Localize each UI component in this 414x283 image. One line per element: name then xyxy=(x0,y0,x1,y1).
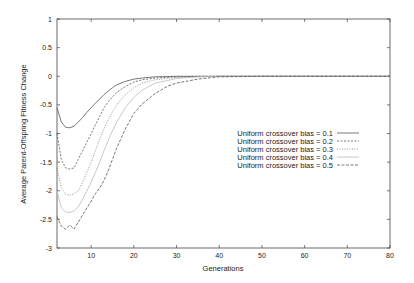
y-tick-label: -2 xyxy=(46,187,52,194)
y-tick-label: 0.5 xyxy=(42,44,52,51)
series-line-1 xyxy=(57,76,390,128)
x-tick-label: 20 xyxy=(130,252,138,259)
series-lines xyxy=(57,76,390,229)
x-tick-label: 10 xyxy=(87,252,95,259)
line-chart: 1020304050607080 10.50-0.5-1-1.5-2-2.5-3… xyxy=(0,0,414,283)
plot-frame xyxy=(57,19,390,248)
y-axis-title: Average Parent-Offspring Fitness Change xyxy=(19,64,28,203)
series-line-2 xyxy=(57,76,390,169)
x-tick-label: 70 xyxy=(343,252,351,259)
x-tick-label: 30 xyxy=(173,252,181,259)
series-line-3 xyxy=(57,76,390,195)
x-axis-title: Generations xyxy=(203,264,244,273)
x-tick-label: 60 xyxy=(301,252,309,259)
legend: Uniform crossover bias = 0.1Uniform cros… xyxy=(237,129,359,170)
y-tick-label: 0 xyxy=(48,73,52,80)
y-tick-label: -0.5 xyxy=(40,101,52,108)
y-tick-label: -2.5 xyxy=(40,216,52,223)
y-axis: 10.50-0.5-1-1.5-2-2.5-3 xyxy=(40,16,390,252)
series-line-4 xyxy=(57,76,390,212)
x-tick-label: 40 xyxy=(215,252,223,259)
legend-label: Uniform crossover bias = 0.5 xyxy=(237,161,333,170)
y-tick-label: -1 xyxy=(46,130,52,137)
y-tick-label: -1.5 xyxy=(40,159,52,166)
x-tick-label: 50 xyxy=(258,252,266,259)
series-line-5 xyxy=(57,76,390,229)
x-tick-label: 80 xyxy=(386,252,394,259)
y-tick-label: -3 xyxy=(46,245,52,252)
y-tick-label: 1 xyxy=(48,16,52,23)
